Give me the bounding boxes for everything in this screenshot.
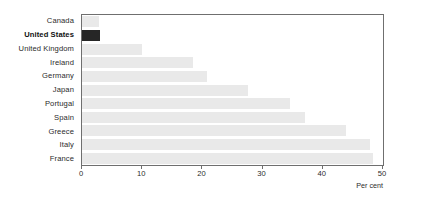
bar-italy[interactable] [82,139,370,150]
category-label-united-kingdom: United Kingdom [0,42,78,56]
bar-row [82,42,383,56]
category-label-spain: Spain [0,111,78,125]
bar-portugal[interactable] [82,98,290,109]
bar-germany[interactable] [82,71,207,82]
category-label-united-states: United States [0,28,78,42]
bar-row [82,29,383,43]
bar-row [82,83,383,97]
category-label-italy: Italy [0,138,78,152]
bar-row [82,97,383,111]
bar-france[interactable] [82,153,373,164]
category-label-ireland: Ireland [0,55,78,69]
bar-row [82,138,383,152]
bar-row [82,110,383,124]
axis-tick-label: 0 [79,170,83,178]
bar-row [82,70,383,84]
plot-area [81,14,384,166]
bar-row [82,56,383,70]
bar-row [82,15,383,29]
bar-row [82,151,383,165]
bar-row [82,124,383,138]
bar-spain[interactable] [82,112,305,123]
bar-canada[interactable] [82,16,99,27]
bar-united-kingdom[interactable] [82,44,142,55]
axis-tick-label: 20 [197,170,205,178]
category-label-portugal: Portugal [0,97,78,111]
category-axis-labels: Canada United States United Kingdom Irel… [0,14,78,166]
bar-ireland[interactable] [82,57,193,68]
category-label-greece: Greece [0,125,78,139]
category-label-canada: Canada [0,14,78,28]
bar-series [82,15,383,165]
axis-tick-label: 50 [378,170,386,178]
axis-title-per-cent: Per cent [313,182,383,189]
category-label-france: France [0,152,78,166]
bar-chart-figure: Canada United States United Kingdom Irel… [0,0,423,203]
bar-united-states[interactable] [82,30,100,41]
axis-tick-label: 30 [257,170,265,178]
bar-greece[interactable] [82,125,346,136]
category-label-japan: Japan [0,83,78,97]
category-label-germany: Germany [0,69,78,83]
axis-tick-label: 40 [318,170,326,178]
axis-tick-label: 10 [137,170,145,178]
bar-japan[interactable] [82,85,248,96]
value-axis: 01020304050 [81,166,383,167]
